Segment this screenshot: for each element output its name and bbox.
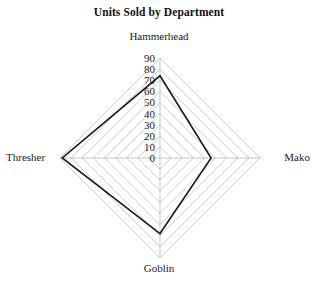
- series-polygon-group: [62, 76, 211, 234]
- radial-tick-label: 10: [144, 141, 156, 153]
- radial-tick-label: 20: [144, 130, 156, 142]
- radial-tick-labels: 0102030405060708090: [144, 52, 156, 164]
- series-polygon: [62, 76, 211, 234]
- radial-tick-label: 90: [144, 52, 156, 64]
- radar-chart-figure: Units Sold by Department Hammerhead Mako…: [0, 0, 318, 296]
- radial-tick-label: 30: [144, 119, 156, 131]
- radial-tick-label: 0: [150, 152, 156, 164]
- radial-tick-label: 40: [144, 108, 156, 120]
- radial-tick-label: 80: [144, 63, 156, 75]
- radial-tick-label: 50: [144, 96, 156, 108]
- radar-plot-area: 0102030405060708090: [0, 0, 318, 296]
- grid-spokes: [60, 58, 260, 258]
